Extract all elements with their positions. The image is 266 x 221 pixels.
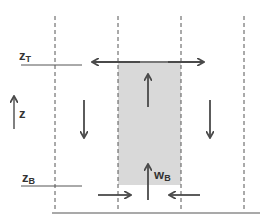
z-bottom-label: zB: [22, 171, 35, 186]
z-axis-text: z: [19, 106, 26, 121]
z-bottom-sub: B: [29, 176, 36, 186]
w-bottom-sub: B: [164, 173, 171, 183]
z-top-label: zT: [19, 49, 31, 64]
z-top-sub: T: [26, 54, 32, 64]
updraft-box: [118, 63, 181, 185]
z-axis-label: z: [19, 107, 26, 120]
updraft-diagram: [0, 0, 266, 221]
w-bottom-main: w: [154, 167, 164, 182]
w-bottom-label: wB: [154, 168, 171, 183]
